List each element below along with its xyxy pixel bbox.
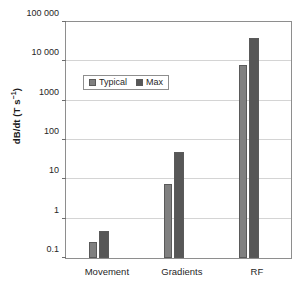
legend-swatch-max-icon [136,79,143,86]
bar-rf-typical [239,65,248,258]
bar-group [66,22,141,258]
legend-entry-typical: Typical [89,78,127,87]
bar-gradients-typical [164,184,173,258]
plot-area: 0.1110100100010 000100 000 MovementGradi… [65,21,292,259]
bar-group [141,22,216,258]
y-axis-title-exponent: −1 [10,91,17,99]
y-axis-title-tail: ) [11,88,22,91]
legend-entry-max: Max [136,78,163,87]
x-axis-label-rf: RF [251,266,264,277]
y-axis-tick-label: 10 000 [31,48,59,57]
bar-rf-max [249,38,259,258]
x-axis-label-movement: Movement [85,266,129,277]
legend-label-max: Max [146,78,163,87]
x-axis-label-gradients: Gradients [161,266,202,277]
legend-label-typical: Typical [99,78,127,87]
y-axis-tick-label: 0.1 [46,245,59,254]
legend-swatch-typical-icon [89,79,96,86]
bar-movement-typical [89,242,98,258]
y-axis-title: dB/dt (T s−1) [10,56,22,176]
bar-chart: dB/dt (T s−1) 0.1110100100010 000100 000… [0,0,307,296]
y-axis-tick-label: 1000 [39,87,59,96]
y-axis-title-main: dB/dt (T s [11,99,22,144]
y-axis-tick-label: 1 [54,205,59,214]
y-axis-tick-label: 100 000 [26,9,59,18]
y-axis-tick-label: 10 [49,166,59,175]
bar-group [216,22,291,258]
chart-legend: Typical Max [83,75,169,90]
bar-gradients-max [174,152,184,258]
bar-movement-max [99,231,109,258]
y-axis-tick-label: 100 [44,127,59,136]
